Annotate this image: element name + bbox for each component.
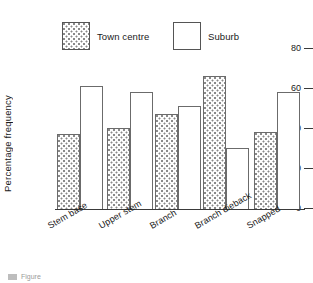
bar-suburb <box>80 86 103 210</box>
plot-area <box>55 40 305 210</box>
bar-chart: Town centre Suburb Percentage frequency … <box>0 0 313 283</box>
y-tick-mark-icon <box>304 128 313 129</box>
bar-town-centre <box>155 114 178 210</box>
x-tick-label-branch: Branch <box>148 207 178 230</box>
bar-town-centre <box>107 128 130 210</box>
y-tick-mark-icon <box>304 168 313 169</box>
bar-group <box>155 40 203 210</box>
caption-marker-icon <box>8 274 17 280</box>
y-tick-mark-icon <box>304 208 313 209</box>
bar-suburb <box>178 106 201 210</box>
y-axis-title: Percentage frequency <box>2 95 16 192</box>
bar-group <box>107 40 155 210</box>
bar-group <box>203 40 251 210</box>
bar-suburb <box>130 92 153 210</box>
y-tick-mark-icon <box>304 48 313 49</box>
figure-caption: Figure <box>8 273 308 282</box>
bar-town-centre <box>254 132 277 210</box>
bar-suburb <box>277 92 300 210</box>
bar-group <box>254 40 302 210</box>
bar-town-centre <box>57 134 80 210</box>
caption-text: Figure <box>21 273 41 280</box>
bar-town-centre <box>203 76 226 210</box>
y-tick-mark-icon <box>304 88 313 89</box>
bar-group <box>57 40 105 210</box>
